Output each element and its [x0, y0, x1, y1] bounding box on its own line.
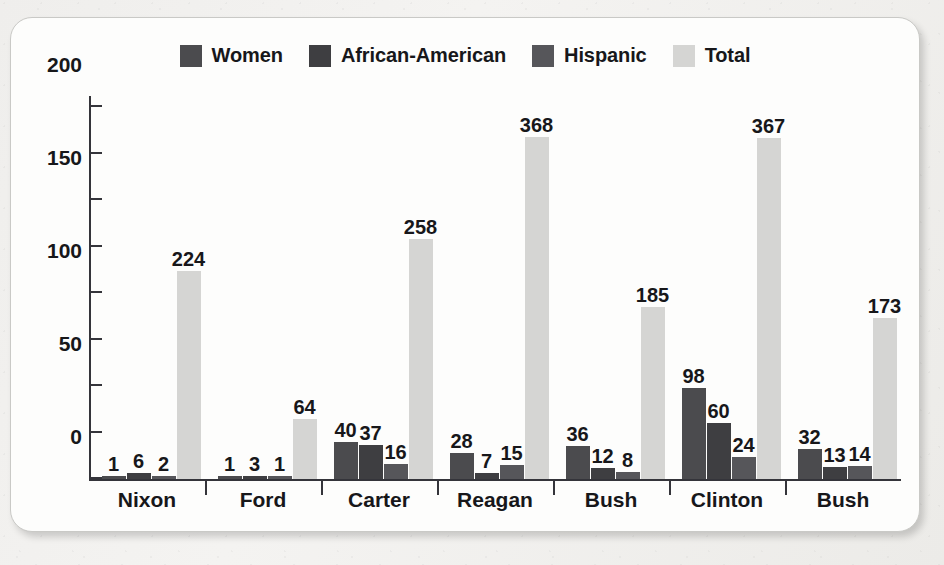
- bar-value-label: 12: [591, 446, 613, 466]
- bar: 6: [127, 473, 151, 479]
- bar-group: 13164: [205, 107, 321, 479]
- bar-group: 986024367: [669, 107, 785, 479]
- bar: 24: [732, 457, 756, 479]
- bar: 36: [566, 446, 590, 479]
- legend-label: Women: [212, 44, 283, 67]
- legend-item: Women: [180, 44, 283, 67]
- bar-value-label: 32: [798, 427, 820, 447]
- bar-value-label: 7: [481, 451, 492, 471]
- y-axis-tick-label: 0: [70, 425, 82, 449]
- bar-group: 403716258: [321, 107, 437, 479]
- chart-card: WomenAfrican-AmericanHispanicTotal 05010…: [10, 17, 920, 532]
- legend-label: African-American: [341, 44, 506, 67]
- bar-group: 321314173: [785, 107, 901, 479]
- bar: 32: [798, 449, 822, 479]
- bar: 224: [177, 271, 201, 479]
- x-axis-category-label: Clinton: [669, 488, 785, 512]
- bar-value-label: 40: [334, 420, 356, 440]
- legend-swatch-icon: [309, 45, 331, 67]
- bar-value-label: 2: [158, 454, 169, 474]
- y-axis-tick-label: 200: [47, 53, 82, 77]
- bar-value-label: 98: [682, 366, 704, 386]
- bar: 2: [152, 476, 176, 479]
- bar: 14: [848, 466, 872, 479]
- bar-value-label: 15: [500, 443, 522, 463]
- bar-value-label: 173: [868, 296, 901, 316]
- bar-group: 162224: [89, 107, 205, 479]
- bar-value-label: 3: [249, 454, 260, 474]
- bar-value-label: 36: [566, 424, 588, 444]
- bar-group: 28715368: [437, 107, 553, 479]
- bar-value-label: 368: [520, 115, 553, 135]
- bar: 1: [268, 476, 292, 479]
- bar: 367: [757, 138, 781, 479]
- bar: 60: [707, 423, 731, 479]
- bar-value-label: 185: [636, 285, 669, 305]
- bar: 258: [409, 239, 433, 479]
- bar-value-label: 8: [622, 450, 633, 470]
- legend-swatch-icon: [180, 45, 202, 67]
- bar-value-label: 1: [224, 454, 235, 474]
- bar-value-label: 1: [108, 454, 119, 474]
- x-axis-category-label: Ford: [205, 488, 321, 512]
- x-axis-category-label: Reagan: [437, 488, 553, 512]
- legend-label: Total: [705, 44, 751, 67]
- bar-value-label: 60: [707, 401, 729, 421]
- y-axis-tick-label: 150: [47, 146, 82, 170]
- bar: 3: [243, 476, 267, 479]
- legend-label: Hispanic: [564, 44, 647, 67]
- bar: 173: [873, 318, 897, 479]
- bar: 13: [823, 467, 847, 479]
- bar-value-label: 258: [404, 217, 437, 237]
- bar-value-label: 28: [450, 431, 472, 451]
- bar-value-label: 16: [384, 442, 406, 462]
- bar: 37: [359, 445, 383, 479]
- bar: 12: [591, 468, 615, 479]
- y-axis-tick-label: 50: [59, 332, 82, 356]
- bar-value-label: 224: [172, 249, 205, 269]
- bar: 64: [293, 419, 317, 479]
- bar: 98: [682, 388, 706, 479]
- bar: 8: [616, 472, 640, 479]
- legend-swatch-icon: [673, 45, 695, 67]
- bar-value-label: 6: [133, 451, 144, 471]
- bar: 16: [384, 464, 408, 479]
- y-axis-tick-label: 100: [47, 239, 82, 263]
- legend-item: African-American: [309, 44, 506, 67]
- bar-value-label: 14: [848, 444, 870, 464]
- x-axis-line: [89, 479, 901, 481]
- x-axis-category-label: Nixon: [89, 488, 205, 512]
- bar: 185: [641, 307, 665, 479]
- bar-value-label: 367: [752, 116, 785, 136]
- legend-swatch-icon: [532, 45, 554, 67]
- bar-value-label: 1: [274, 454, 285, 474]
- bar-value-label: 24: [732, 435, 754, 455]
- bar: 28: [450, 453, 474, 479]
- legend-item: Hispanic: [532, 44, 647, 67]
- bar-value-label: 37: [359, 423, 381, 443]
- chart-legend: WomenAfrican-AmericanHispanicTotal: [11, 44, 919, 67]
- bar-value-label: 64: [293, 397, 315, 417]
- bar: 40: [334, 442, 358, 479]
- x-axis-category-label: Bush: [785, 488, 901, 512]
- bar: 1: [102, 476, 126, 479]
- legend-item: Total: [673, 44, 751, 67]
- bar: 368: [525, 137, 549, 479]
- x-axis-category-label: Carter: [321, 488, 437, 512]
- bar: 1: [218, 476, 242, 479]
- bar: 15: [500, 465, 524, 479]
- plot-area: 050100150200250300350400 162224131644037…: [89, 96, 901, 496]
- x-axis-category-label: Bush: [553, 488, 669, 512]
- bar-group: 36128185: [553, 107, 669, 479]
- bar: 7: [475, 473, 499, 480]
- bar-value-label: 13: [823, 445, 845, 465]
